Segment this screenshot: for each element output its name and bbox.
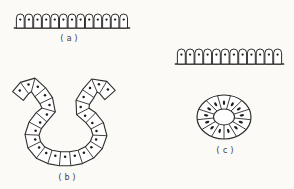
epithelial-band-outline bbox=[13, 78, 116, 166]
cell-nucleus bbox=[95, 130, 98, 133]
label-c: (c) bbox=[215, 145, 236, 155]
cell-outline bbox=[274, 49, 282, 64]
cell-outline bbox=[111, 14, 119, 28]
cell-outline bbox=[177, 49, 185, 64]
cell-outline bbox=[230, 49, 238, 64]
ring-c-group bbox=[197, 95, 251, 139]
row-a-group bbox=[15, 14, 130, 28]
cell-nucleus bbox=[54, 155, 57, 158]
cell-nucleus bbox=[19, 18, 21, 20]
cell-nucleus bbox=[62, 18, 64, 20]
cell-division-line bbox=[93, 135, 107, 136]
cell-nucleus bbox=[45, 152, 48, 155]
label-a: (a) bbox=[59, 33, 80, 43]
cell-nucleus bbox=[19, 89, 22, 92]
cell-outline bbox=[34, 14, 42, 28]
cell-outline bbox=[239, 49, 247, 64]
cell-nucleus bbox=[84, 115, 87, 118]
cell-nucleus bbox=[45, 18, 47, 20]
cell-outline bbox=[60, 14, 68, 28]
cell-nucleus bbox=[114, 18, 116, 20]
cell-outline bbox=[247, 49, 255, 64]
cell-nucleus bbox=[34, 138, 37, 141]
cell-nucleus bbox=[54, 18, 56, 20]
cell-nucleus bbox=[90, 146, 93, 149]
row-right-group bbox=[176, 49, 284, 64]
cell-nucleus bbox=[241, 53, 243, 55]
cell-nucleus bbox=[64, 155, 67, 158]
cell-outline bbox=[204, 49, 212, 64]
epithelium-diagram bbox=[0, 0, 294, 189]
cell-outline bbox=[94, 14, 102, 28]
cell-outline bbox=[186, 49, 194, 64]
cell-outline bbox=[42, 14, 50, 28]
cell-nucleus bbox=[276, 53, 278, 55]
invagination-b-group bbox=[13, 78, 116, 166]
cell-nucleus bbox=[180, 53, 182, 55]
cell-outline bbox=[265, 49, 273, 64]
cell-nucleus bbox=[215, 53, 217, 55]
cell-nucleus bbox=[38, 146, 41, 149]
cell-outline bbox=[256, 49, 264, 64]
ring-lumen bbox=[214, 109, 235, 125]
cell-nucleus bbox=[89, 87, 92, 90]
cell-nucleus bbox=[223, 101, 225, 105]
cell-nucleus bbox=[34, 129, 37, 132]
cell-nucleus bbox=[198, 53, 200, 55]
cell-nucleus bbox=[74, 155, 77, 158]
cell-nucleus bbox=[44, 94, 47, 97]
cell-outline bbox=[120, 14, 128, 28]
label-b: (b) bbox=[57, 172, 78, 182]
cell-outline bbox=[212, 49, 220, 64]
cell-nucleus bbox=[98, 83, 101, 86]
cell-nucleus bbox=[71, 18, 73, 20]
cell-outline bbox=[68, 14, 76, 28]
cell-nucleus bbox=[95, 138, 98, 141]
cell-nucleus bbox=[27, 83, 30, 86]
figure-canvas: (a) (b) (c) bbox=[0, 0, 294, 189]
cell-nucleus bbox=[39, 121, 42, 124]
cell-nucleus bbox=[88, 18, 90, 20]
cell-outline bbox=[16, 14, 24, 28]
cell-nucleus bbox=[123, 18, 125, 20]
cell-outline bbox=[25, 14, 33, 28]
cell-nucleus bbox=[206, 53, 208, 55]
cell-outline bbox=[221, 49, 229, 64]
cell-nucleus bbox=[224, 53, 226, 55]
cell-nucleus bbox=[82, 96, 85, 99]
cell-nucleus bbox=[91, 122, 94, 125]
cell-outline bbox=[85, 14, 93, 28]
cell-outline bbox=[103, 14, 111, 28]
cell-nucleus bbox=[233, 53, 235, 55]
cell-outline bbox=[195, 49, 203, 64]
cell-nucleus bbox=[79, 18, 81, 20]
cell-nucleus bbox=[37, 86, 40, 89]
cell-nucleus bbox=[250, 53, 252, 55]
cell-nucleus bbox=[259, 53, 261, 55]
cell-nucleus bbox=[105, 18, 107, 20]
cell-nucleus bbox=[28, 18, 30, 20]
cell-outline bbox=[51, 14, 59, 28]
cell-nucleus bbox=[79, 106, 82, 109]
cell-nucleus bbox=[268, 53, 270, 55]
cell-nucleus bbox=[83, 152, 86, 155]
cell-outline bbox=[77, 14, 85, 28]
cell-nucleus bbox=[97, 18, 99, 20]
cell-nucleus bbox=[107, 88, 110, 91]
cell-nucleus bbox=[189, 53, 191, 55]
cell-nucleus bbox=[36, 18, 38, 20]
cell-nucleus bbox=[46, 113, 49, 116]
cell-nucleus bbox=[48, 104, 51, 107]
